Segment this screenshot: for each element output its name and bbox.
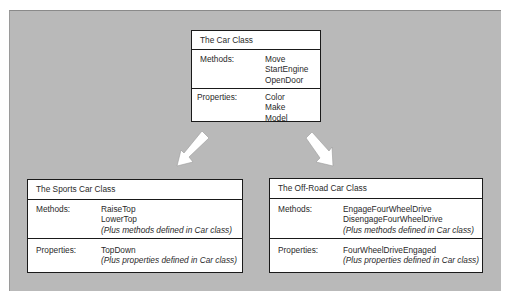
methods-list: Move StartEngine OpenDoor [265,54,308,85]
methods-section: Methods: EngageFourWheelDrive DisengageF… [270,198,482,238]
methods-list: EngageFourWheelDrive DisengageFourWheelD… [343,204,474,235]
sports-car-class-box: The Sports Car Class Methods: RaiseTop L… [27,179,243,273]
properties-label: Properties: [36,245,76,255]
method-item: OpenDoor [265,75,308,85]
properties-label: Properties: [278,245,318,255]
methods-label: Methods: [200,54,234,64]
property-item: Model [265,113,288,123]
arrow-down-right-icon [306,132,333,166]
offroad-car-class-box: The Off-Road Car Class Methods: EngageFo… [269,178,483,273]
property-item: FourWheelDriveEngaged [343,245,479,255]
properties-note: (Plus properties defined in Car class) [101,255,237,265]
methods-note: (Plus methods defined in Car class) [101,225,232,235]
method-item: StartEngine [265,64,308,74]
class-title: The Off-Road Car Class [270,179,482,199]
properties-list: TopDown (Plus properties defined in Car … [101,245,237,266]
methods-list: RaiseTop LowerTop (Plus methods defined … [101,204,232,235]
properties-list: FourWheelDriveEngaged (Plus properties d… [343,245,479,266]
method-item: Move [265,54,308,64]
methods-note: (Plus methods defined in Car class) [343,225,474,235]
properties-label: Properties: [197,92,237,102]
methods-section: Methods: RaiseTop LowerTop (Plus methods… [28,199,242,238]
car-class-box: The Car Class Methods: Move StartEngine … [191,30,321,122]
property-item: TopDown [101,245,237,255]
class-title: The Car Class [192,31,320,50]
properties-list: Color Make Model [265,92,288,123]
properties-section: Properties: TopDown (Plus properties def… [28,238,242,272]
methods-label: Methods: [36,204,70,214]
methods-section: Methods: Move StartEngine OpenDoor [192,49,320,88]
class-title: The Sports Car Class [28,180,242,200]
method-item: EngageFourWheelDrive [343,204,474,214]
method-item: DisengageFourWheelDrive [343,214,474,224]
method-item: RaiseTop [101,204,232,214]
method-item: LowerTop [101,214,232,224]
arrow-down-left-icon [177,131,209,166]
methods-label: Methods: [278,204,312,214]
property-item: Make [265,102,288,112]
properties-section: Properties: Color Make Model [192,88,320,122]
properties-note: (Plus properties defined in Car class) [343,255,479,265]
property-item: Color [265,92,288,102]
properties-section: Properties: FourWheelDriveEngaged (Plus … [270,238,482,272]
